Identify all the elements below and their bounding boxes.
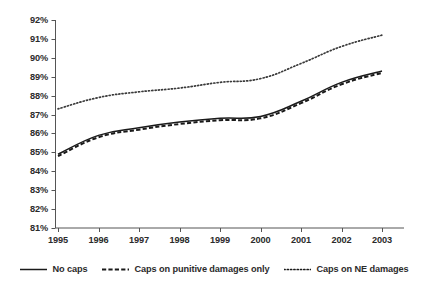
chart-series-layer bbox=[58, 35, 382, 156]
x-tick-label: 1996 bbox=[77, 235, 121, 245]
y-tick-label: 84% bbox=[14, 166, 48, 176]
legend-item-0[interactable]: No caps bbox=[20, 264, 87, 274]
y-tick-label: 85% bbox=[14, 147, 48, 157]
chart-axes bbox=[52, 20, 405, 232]
y-tick-label: 92% bbox=[14, 15, 48, 25]
x-tick-label: 1999 bbox=[198, 235, 242, 245]
legend-line-swatch-icon bbox=[284, 265, 311, 274]
y-tick-label: 87% bbox=[14, 110, 48, 120]
legend-label: Caps on NE damages bbox=[316, 264, 408, 274]
y-tick-label: 86% bbox=[14, 128, 48, 138]
y-tick-label: 89% bbox=[14, 72, 48, 82]
y-tick-label: 81% bbox=[14, 223, 48, 233]
legend-label: No caps bbox=[52, 264, 87, 274]
legend-item-1[interactable]: Caps on punitive damages only bbox=[102, 264, 269, 274]
x-tick-label: 2002 bbox=[320, 235, 364, 245]
legend-label: Caps on punitive damages only bbox=[134, 264, 269, 274]
x-tick-label: 1997 bbox=[117, 235, 161, 245]
x-tick-label: 2003 bbox=[360, 235, 404, 245]
legend-item-2[interactable]: Caps on NE damages bbox=[284, 264, 408, 274]
y-tick-label: 90% bbox=[14, 53, 48, 63]
x-tick-label: 2000 bbox=[239, 235, 283, 245]
chart-legend: No capsCaps on punitive damages onlyCaps… bbox=[0, 258, 429, 280]
line-chart: 92%91%90%89%88%87%86%85%84%83%82%81% 199… bbox=[0, 0, 429, 283]
series-line-2 bbox=[58, 35, 382, 109]
x-tick-label: 1995 bbox=[36, 235, 80, 245]
y-tick-label: 83% bbox=[14, 185, 48, 195]
series-line-0 bbox=[58, 71, 382, 154]
x-tick-label: 2001 bbox=[279, 235, 323, 245]
x-tick-label: 1998 bbox=[158, 235, 202, 245]
legend-line-swatch-icon bbox=[20, 265, 47, 274]
legend-line-swatch-icon bbox=[102, 265, 129, 274]
y-tick-label: 91% bbox=[14, 34, 48, 44]
y-tick-label: 88% bbox=[14, 91, 48, 101]
y-tick-label: 82% bbox=[14, 204, 48, 214]
